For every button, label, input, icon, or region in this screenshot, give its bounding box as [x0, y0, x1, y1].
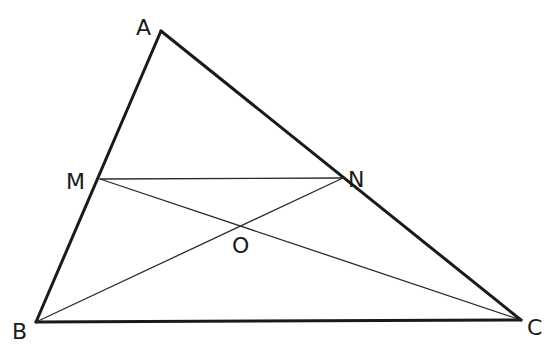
- label-b: B: [12, 319, 27, 344]
- label-m: M: [66, 169, 85, 194]
- label-c: C: [527, 315, 542, 340]
- segment-bc: [36, 320, 521, 322]
- triangle-diagram: A M N O B C: [0, 0, 556, 354]
- label-o: O: [232, 233, 249, 258]
- label-a: A: [136, 15, 151, 40]
- label-n: N: [348, 167, 364, 192]
